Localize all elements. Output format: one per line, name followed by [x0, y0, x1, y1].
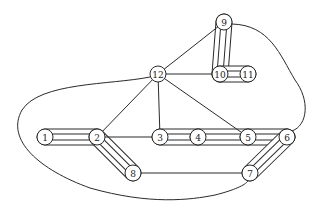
node-label: 10 — [214, 70, 226, 80]
edge-12-3 — [158, 74, 160, 137]
edge-12-2 — [97, 74, 158, 137]
node-label: 1 — [42, 133, 48, 143]
graph-canvas: 123456789101112 — [0, 0, 320, 215]
graph-diagram: 123456789101112 — [0, 0, 320, 215]
node-6: 6 — [279, 129, 295, 145]
node-label: 6 — [284, 133, 290, 143]
node-2: 2 — [89, 129, 105, 145]
node-label: 3 — [157, 133, 163, 143]
node-label: 7 — [247, 169, 253, 179]
node-12: 12 — [150, 66, 166, 82]
node-1: 1 — [37, 129, 53, 145]
node-label: 4 — [195, 133, 201, 143]
node-3: 3 — [152, 129, 168, 145]
node-11: 11 — [240, 66, 256, 82]
node-label: 5 — [245, 133, 251, 143]
node-label: 8 — [130, 169, 136, 179]
node-label: 9 — [221, 18, 227, 28]
node-8: 8 — [125, 165, 141, 181]
node-7: 7 — [242, 165, 258, 181]
node-label: 2 — [94, 133, 100, 143]
node-label: 12 — [152, 70, 163, 80]
edge-12-5 — [158, 74, 248, 137]
node-5: 5 — [240, 129, 256, 145]
node-9: 9 — [216, 14, 232, 30]
node-label: 11 — [242, 70, 253, 80]
node-4: 4 — [190, 129, 206, 145]
band-edges — [37, 13, 298, 184]
node-10: 10 — [212, 66, 228, 82]
